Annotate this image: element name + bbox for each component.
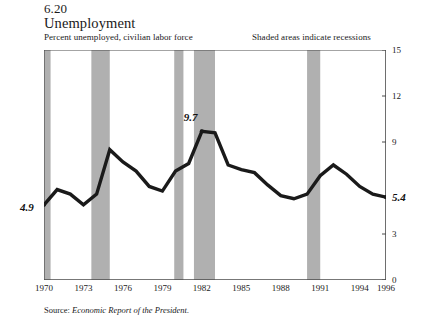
page-title: Unemployment (44, 15, 135, 31)
annotation-start-value: 4.9 (20, 201, 34, 213)
y-axis-label-15: 15 (392, 45, 401, 55)
x-axis-label-1988: 1988 (272, 283, 290, 294)
x-axis-label-1982: 1982 (193, 283, 211, 294)
x-axis-label-1973: 1973 (74, 283, 92, 294)
y-axis-label-12: 12 (392, 91, 401, 101)
recession-band-5 (307, 50, 320, 280)
x-axis-label-1996: 1996 (377, 283, 395, 294)
data-point-1982 (200, 129, 204, 133)
source-title: Economic Report of the President. (72, 305, 189, 315)
source-label: Source: (44, 305, 70, 315)
y-axis-label-9: 9 (392, 137, 397, 147)
figure-subtitle: Percent unemployed, civilian labor force (44, 32, 193, 43)
x-axis-label-1985: 1985 (232, 283, 250, 294)
y-axis-label-3: 3 (392, 229, 397, 239)
figure-number: 6.20 (44, 2, 67, 16)
x-axis-label-1970: 1970 (35, 283, 53, 294)
recession-legend-note: Shaded areas indicate recessions (252, 32, 371, 43)
x-axis-label-1976: 1976 (114, 283, 132, 294)
annotation-end-value: 5.4 (392, 191, 406, 203)
annotation-peak-value: 9.7 (184, 111, 198, 123)
recession-band-4 (194, 50, 215, 280)
x-axis-label-1994: 1994 (351, 283, 369, 294)
recession-band-3 (174, 50, 183, 280)
figure-container: 6.20 Unemployment Percent unemployed, ci… (0, 0, 424, 325)
unemployment-line-chart (44, 50, 386, 280)
figure-source: Source: Economic Report of the President… (44, 305, 189, 316)
x-axis-label-1979: 1979 (153, 283, 171, 294)
x-axis-label-1991: 1991 (311, 283, 329, 294)
chart-plot-area (44, 50, 386, 280)
recession-band-1 (44, 50, 51, 280)
recession-bands (44, 50, 320, 280)
